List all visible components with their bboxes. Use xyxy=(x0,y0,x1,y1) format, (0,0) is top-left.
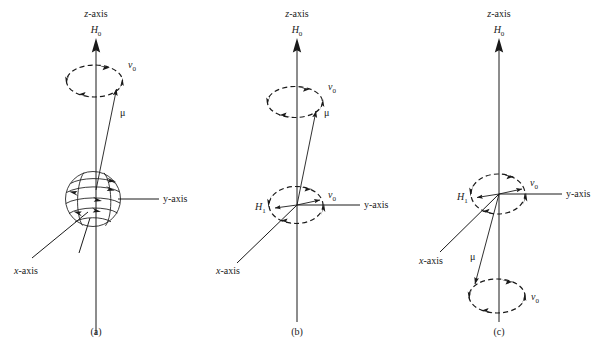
xy-ellipse-arrow-b-left xyxy=(267,195,271,208)
nu0-label-a: v0 xyxy=(128,59,136,73)
xy-ellipse-arrow-c-left xyxy=(469,184,473,197)
spin-sphere-a xyxy=(66,172,121,227)
nu0-vector-c-upper xyxy=(499,189,522,194)
nu0-label-b-upper: v0 xyxy=(328,81,336,95)
figure-container: z-axis H0 v0 μ y-axis xyxy=(0,0,609,356)
precession-arrow-a-left xyxy=(65,74,69,85)
panel-caption-b: (b) xyxy=(291,326,303,338)
nu0-label-b-lower: v0 xyxy=(328,189,336,203)
h0-label-b: H0 xyxy=(291,24,303,38)
sphere-spin-arrow-2 xyxy=(106,186,115,191)
y-axis-label-c: y-axis xyxy=(566,188,591,199)
sphere-spin-arrow-5 xyxy=(69,191,78,196)
z-axis-label-b: z-axis xyxy=(284,8,308,19)
nu0-label-c-lower: v0 xyxy=(531,291,539,305)
h0-label-c: H0 xyxy=(493,24,505,38)
y-axis-label-b: y-axis xyxy=(364,199,389,210)
precession-arrow-c-lower-right xyxy=(522,293,526,305)
h1-label-c: H1 xyxy=(456,191,468,205)
x-axis-label-b: x-axis xyxy=(215,265,240,276)
x-axis-line-b xyxy=(237,205,297,263)
h0-label-a: H0 xyxy=(90,24,102,38)
precession-ellipse-c-lower xyxy=(469,279,525,313)
precession-ellipse-a xyxy=(67,65,123,97)
nmr-precession-diagram: z-axis H0 v0 μ y-axis xyxy=(0,0,609,356)
z-axis-label-a-text: z xyxy=(83,8,88,19)
nu0-label-c-upper: v0 xyxy=(530,177,538,191)
precession-arrow-b-upper-left xyxy=(266,95,270,106)
mu-label-b: μ xyxy=(324,107,329,118)
sphere-spin-arrow-6 xyxy=(74,212,83,217)
panel-b: z-axis H0 v0 μ H1 v0 y-axis x-axis (b) xyxy=(215,8,389,338)
panel-a: z-axis H0 v0 μ y-axis xyxy=(13,8,188,338)
sphere-latitude-3 xyxy=(66,198,120,204)
panel-c: z-axis H0 H1 v0 y-axis x-axis μ v0 (c) xyxy=(418,8,591,338)
panel-caption-a: (a) xyxy=(90,326,101,338)
x-axis-line-c xyxy=(440,194,499,252)
precession-arrow-a-right xyxy=(120,78,124,89)
mu-label-c: μ xyxy=(470,251,475,262)
z-axis-label-a: z-axis xyxy=(83,8,107,19)
panel-caption-c: (c) xyxy=(493,326,504,338)
x-axis-label-c: x-axis xyxy=(418,255,443,266)
y-axis-label-a: y-axis xyxy=(163,193,188,204)
nu0-vector-b xyxy=(297,200,320,205)
sphere-spin-arrow-3 xyxy=(93,197,102,202)
x-axis-label-a: x-axis xyxy=(13,265,38,276)
precession-ellipse-b-upper xyxy=(268,87,323,118)
precession-arrow-b-upper-top xyxy=(299,87,311,92)
mu-label-a: μ xyxy=(120,107,125,118)
z-axis-label-c: z-axis xyxy=(486,8,510,19)
h1-label-b: H1 xyxy=(254,201,266,215)
